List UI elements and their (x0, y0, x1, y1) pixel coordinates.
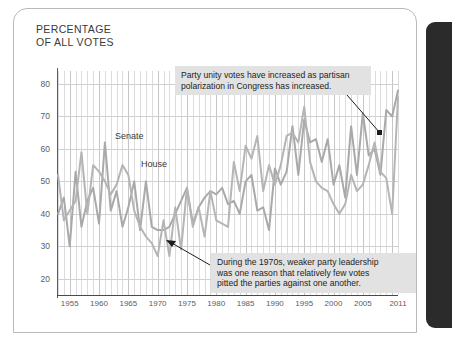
side-panel (426, 22, 452, 328)
chart-card: PERCENTAGE OF ALL VOTES 20304050607080 1… (13, 8, 417, 333)
annotation-bottom-arrow (14, 9, 417, 333)
